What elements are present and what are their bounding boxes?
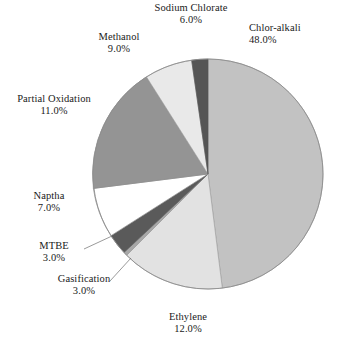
slice-label-value: 3.0% [16, 252, 92, 264]
slice-label-name: Methanol [73, 31, 165, 43]
pie-slice-chlor-alkali[interactable] [208, 59, 323, 288]
slice-label-partial-oxidation: Partial Oxidation 11.0% [0, 93, 108, 117]
slice-label-value: 48.0% [249, 34, 355, 46]
slice-label-methanol: Methanol 9.0% [73, 31, 165, 55]
pie-chart-figure: Sodium Chlorate 6.0% Chlor-alkali 48.0% … [0, 0, 363, 347]
slice-label-value: 3.0% [32, 285, 136, 297]
slice-label-value: 9.0% [73, 43, 165, 55]
slice-label-name: Naptha [8, 190, 90, 202]
slice-label-value: 11.0% [0, 105, 108, 117]
slice-label-name: Chlor-alkali [249, 22, 355, 34]
pie-slices [92, 59, 323, 289]
slice-label-value: 12.0% [140, 323, 236, 335]
slice-label-mtbe: MTBE 3.0% [16, 240, 92, 264]
slice-label-gasification: Gasification 3.0% [32, 273, 136, 297]
slice-label-name: Sodium Chlorate [135, 2, 247, 14]
slice-label-value: 7.0% [8, 202, 90, 214]
slice-label-name: MTBE [16, 240, 92, 252]
slice-label-name: Gasification [32, 273, 136, 285]
slice-label-ethylene: Ethylene 12.0% [140, 311, 236, 335]
slice-label-naptha: Naptha 7.0% [8, 190, 90, 214]
slice-label-value: 6.0% [135, 14, 247, 26]
slice-label-sodium-chlorate: Sodium Chlorate 6.0% [135, 2, 247, 26]
slice-label-name: Ethylene [140, 311, 236, 323]
slice-label-name: Partial Oxidation [0, 93, 108, 105]
slice-label-chlor-alkali: Chlor-alkali 48.0% [249, 22, 355, 46]
